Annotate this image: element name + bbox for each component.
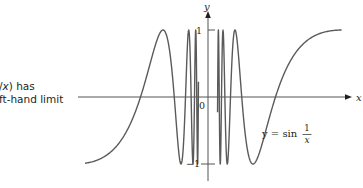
tick-label-neg-1: −1 xyxy=(186,158,200,169)
y-axis-label: y xyxy=(203,1,210,12)
equation-numerator: 1 xyxy=(304,123,309,133)
x-axis-label: x xyxy=(356,92,362,103)
equation-lhs: y = sin xyxy=(261,128,298,139)
x-axis-arrow-icon xyxy=(345,94,352,100)
equation-denominator: x xyxy=(304,135,309,145)
y-axis-arrow-icon xyxy=(205,11,211,18)
origin-label: 0 xyxy=(199,100,205,111)
equation-label: y = sin 1 x xyxy=(261,123,312,145)
sin-one-over-x-graph: y x 1 −1 0 y = sin 1 x xyxy=(0,0,363,188)
tick-label-1: 1 xyxy=(196,25,202,36)
